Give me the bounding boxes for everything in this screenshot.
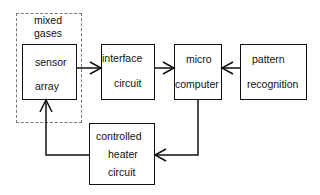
connector-arrows (0, 0, 320, 195)
